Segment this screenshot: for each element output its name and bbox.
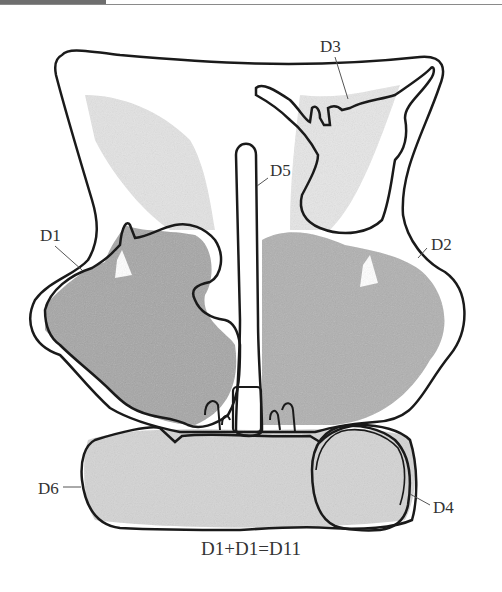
region-diagram: D1 D2 D3 D4 D5 D6: [0, 0, 502, 592]
figure-caption: D1+D1=D11: [0, 538, 502, 560]
leader-d5: [257, 178, 268, 186]
label-d3: D3: [320, 37, 341, 56]
label-d4: D4: [433, 498, 454, 517]
label-d6: D6: [38, 479, 59, 498]
leader-d4: [410, 494, 430, 505]
label-d5: D5: [270, 161, 291, 180]
region-d5-outline: [236, 144, 262, 436]
tissue-texture: [45, 85, 444, 528]
label-d2: D2: [431, 235, 452, 254]
leader-d1: [55, 246, 82, 270]
label-d1: D1: [40, 226, 61, 245]
